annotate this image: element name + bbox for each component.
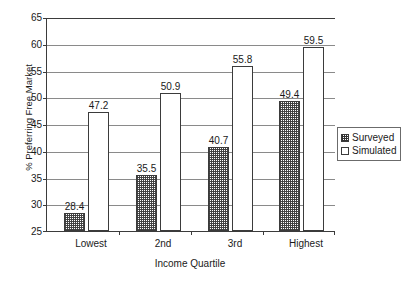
bar-simulated-lowest — [88, 112, 109, 231]
bar-surveyed-2nd — [136, 175, 157, 231]
y-tickmark-30 — [43, 205, 47, 206]
legend-item-surveyed[interactable]: Surveyed — [341, 131, 396, 144]
y-tick-label-25: 25 — [20, 227, 42, 237]
x-category-label-2nd: 2nd — [133, 238, 193, 249]
plot-area: 28.4 47.2 35.5 50.9 40.7 55.8 49.4 59.5 — [46, 18, 334, 232]
y-tickmark-25 — [43, 231, 47, 232]
legend-swatch-surveyed-icon — [341, 134, 349, 142]
y-axis-tick-labels: 65 60 55 50 45 40 35 30 25 — [20, 0, 42, 286]
y-tick-label-65: 65 — [20, 13, 42, 23]
gridline-55 — [47, 72, 335, 73]
y-tick-label-30: 30 — [20, 200, 42, 210]
y-tickmark-55 — [43, 72, 47, 73]
bar-simulated-2nd — [160, 93, 181, 232]
bar-surveyed-3rd — [208, 147, 229, 231]
y-tickmark-45 — [43, 125, 47, 126]
y-tick-label-45: 45 — [20, 120, 42, 130]
legend-swatch-simulated-icon — [341, 147, 349, 155]
y-tickmark-60 — [43, 45, 47, 46]
y-tick-label-50: 50 — [20, 93, 42, 103]
x-tickmark-2 — [191, 231, 192, 235]
legend-label-simulated: Simulated — [352, 145, 396, 156]
y-tick-label-55: 55 — [20, 67, 42, 77]
bar-surveyed-highest — [279, 101, 300, 232]
x-category-label-3rd: 3rd — [205, 238, 265, 249]
x-tickmark-4 — [334, 231, 335, 235]
y-tick-label-40: 40 — [20, 147, 42, 157]
legend-item-simulated[interactable]: Simulated — [341, 144, 396, 157]
x-axis-title: Income Quartile — [46, 258, 334, 269]
bar-label-simulated-lowest: 47.2 — [76, 101, 121, 111]
bar-simulated-highest — [303, 47, 324, 232]
y-tickmark-40 — [43, 152, 47, 153]
bar-label-simulated-3rd: 55.8 — [220, 55, 265, 65]
y-tickmark-50 — [43, 98, 47, 99]
x-tickmark-3 — [263, 231, 264, 235]
bar-label-simulated-2nd: 50.9 — [148, 82, 193, 92]
bar-chart: % Preferring Free Market 65 60 55 50 45 … — [0, 0, 408, 286]
gridline-65 — [47, 18, 335, 19]
x-category-label-lowest: Lowest — [61, 238, 121, 249]
y-tickmark-35 — [43, 179, 47, 180]
bar-label-simulated-highest: 59.5 — [291, 36, 336, 46]
bar-simulated-3rd — [232, 66, 253, 231]
x-category-label-highest: Highest — [276, 238, 336, 249]
legend-label-surveyed: Surveyed — [352, 132, 394, 143]
x-tickmark-1 — [119, 231, 120, 235]
y-tick-label-60: 60 — [20, 40, 42, 50]
legend: Surveyed Simulated — [337, 127, 401, 161]
y-tick-label-35: 35 — [20, 174, 42, 184]
bar-surveyed-lowest — [64, 213, 85, 231]
y-tickmark-65 — [43, 18, 47, 19]
